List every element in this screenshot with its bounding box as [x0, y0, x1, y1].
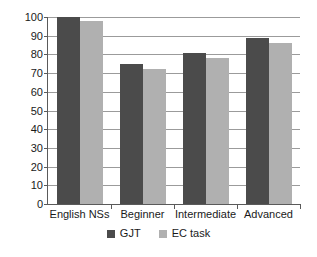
chart-legend: GJTEC task: [0, 228, 317, 239]
legend-entry[interactable]: GJT: [107, 228, 141, 239]
y-tick-label: 0: [37, 199, 43, 210]
y-tick-label: 90: [31, 30, 43, 41]
x-tick-label: Advanced: [244, 209, 293, 220]
bar-ec-task: [80, 21, 103, 204]
y-tick-label: 80: [31, 49, 43, 60]
x-tick-mark: [300, 204, 301, 209]
bar-gjt: [183, 53, 206, 204]
y-tick-label: 60: [31, 86, 43, 97]
x-tick-label: Beginner: [120, 209, 164, 220]
bar-gjt: [246, 38, 269, 204]
x-tick-mark: [111, 204, 112, 209]
bar-group: [237, 17, 300, 204]
bar-ec-task: [143, 69, 166, 204]
bar-ec-task: [206, 58, 229, 204]
bar-gjt: [57, 17, 80, 204]
bar-group: [48, 17, 111, 204]
y-tick-label: 10: [31, 180, 43, 191]
legend-label: GJT: [120, 228, 141, 239]
y-tick-label: 100: [25, 12, 43, 23]
legend-label: EC task: [172, 228, 211, 239]
y-tick-label: 20: [31, 161, 43, 172]
x-tick-mark: [237, 204, 238, 209]
x-tick-label: Intermediate: [175, 209, 236, 220]
bar-group: [111, 17, 174, 204]
legend-swatch-icon: [159, 230, 167, 238]
x-tick-label: English NSs: [50, 209, 110, 220]
bar-ec-task: [269, 43, 292, 204]
y-tick-mark: [44, 204, 48, 205]
y-tick-label: 70: [31, 68, 43, 79]
legend-swatch-icon: [107, 230, 115, 238]
bar-gjt: [120, 64, 143, 204]
y-tick-label: 40: [31, 124, 43, 135]
y-tick-label: 50: [31, 105, 43, 116]
legend-entry[interactable]: EC task: [159, 228, 211, 239]
plot-area: 0102030405060708090100 English NSsBeginn…: [47, 17, 300, 205]
bar-chart-figure: 0102030405060708090100 English NSsBeginn…: [0, 0, 317, 257]
bar-group: [174, 17, 237, 204]
y-tick-label: 30: [31, 142, 43, 153]
